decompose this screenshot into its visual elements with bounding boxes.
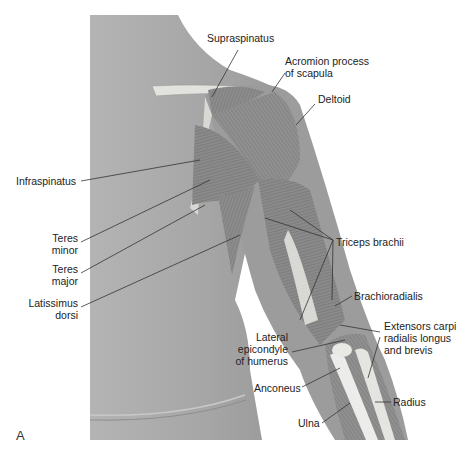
label-teres-minor-line1: Teres bbox=[40, 232, 78, 245]
label-lateral-epicondyle-line3: of humerus bbox=[225, 355, 288, 368]
label-extensors-line3: and brevis bbox=[384, 344, 432, 357]
label-lateral-epicondyle-line1: Lateral bbox=[230, 331, 288, 344]
label-infraspinatus: Infraspinatus bbox=[16, 175, 76, 188]
label-deltoid: Deltoid bbox=[318, 93, 351, 106]
label-teres-major-line1: Teres bbox=[40, 263, 78, 276]
label-radius: Radius bbox=[393, 396, 426, 409]
label-ulna: Ulna bbox=[298, 417, 320, 430]
label-lateral-epicondyle-line2: epicondyle bbox=[230, 343, 288, 356]
label-teres-major-line2: major bbox=[40, 275, 78, 288]
label-acromion-line1: Acromion process bbox=[285, 55, 369, 68]
panel-letter: A bbox=[16, 428, 25, 443]
label-brachioradialis: Brachioradialis bbox=[354, 290, 423, 303]
label-teres-minor-line2: minor bbox=[40, 244, 78, 257]
lateral-epicondyle bbox=[332, 343, 352, 357]
label-latissimus-line2: dorsi bbox=[20, 309, 78, 322]
label-acromion-line2: of scapula bbox=[285, 67, 333, 80]
anatomy-illustration bbox=[0, 0, 476, 460]
label-extensors-line2: radialis longus bbox=[384, 332, 451, 345]
label-latissimus-line1: Latissimus bbox=[20, 297, 78, 310]
label-supraspinatus: Supraspinatus bbox=[207, 32, 274, 45]
label-anconeus: Anconeus bbox=[254, 382, 301, 395]
label-extensors-line1: Extensors carpi bbox=[384, 320, 456, 333]
label-triceps-brachii: Triceps brachii bbox=[336, 236, 404, 249]
